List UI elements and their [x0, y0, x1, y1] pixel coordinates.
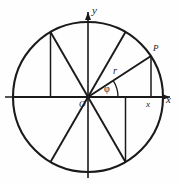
origin-dot	[86, 95, 90, 99]
geometry-diagram	[0, 0, 178, 185]
angle-arc-phi	[113, 81, 118, 97]
y-axis-arrow-icon	[85, 12, 91, 20]
radius-label: r	[113, 66, 117, 76]
figure-canvas: y x x O r φ P	[0, 0, 178, 185]
y-axis-label: y	[92, 5, 97, 16]
radius-vector	[88, 56, 151, 97]
x-coordinate-label: x	[146, 100, 150, 109]
angle-phi-label: φ	[104, 84, 110, 94]
x-axis-label: x	[166, 94, 171, 105]
origin-label: O	[79, 100, 86, 109]
point-p-label: P	[153, 44, 159, 53]
